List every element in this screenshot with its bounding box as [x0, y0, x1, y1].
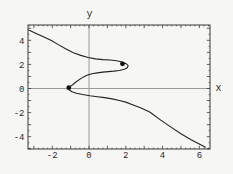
plot-figure: -20246420-2-4 y x	[0, 0, 233, 174]
y-tick-label: -2	[14, 109, 25, 119]
x-tick-label: 2	[123, 151, 128, 161]
marked-point-2	[120, 61, 125, 66]
marked-point-1	[66, 85, 71, 90]
x-tick-label: 6	[197, 151, 202, 161]
plot-svg: -20246420-2-4 y x	[0, 0, 233, 174]
y-tick-label: 2	[19, 61, 24, 71]
plot-frame	[28, 25, 210, 149]
y-axis-label: y	[86, 9, 92, 20]
x-axis-label: x	[215, 83, 221, 94]
x-tick-label: 4	[160, 151, 165, 161]
y-tick-label: -4	[14, 133, 25, 143]
x-tick-label: -2	[47, 151, 58, 161]
x-tick-label: 0	[86, 151, 91, 161]
generated-plot-layer: -20246420-2-4	[14, 25, 210, 161]
y-tick-label: 0	[19, 85, 24, 95]
y-tick-label: 4	[19, 37, 24, 47]
